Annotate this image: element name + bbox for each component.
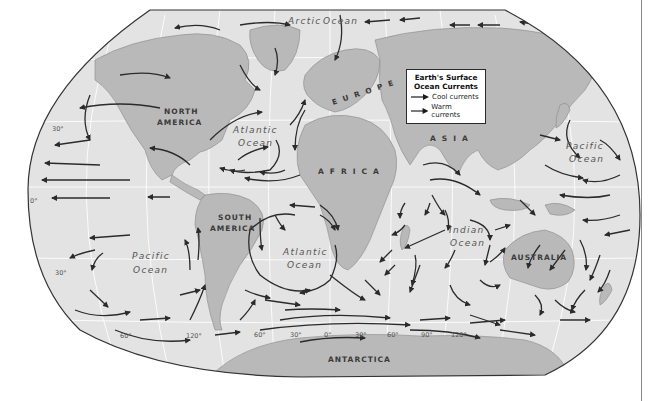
label-south-pacific-1: Pacific — [132, 251, 170, 261]
legend-item-warm: Warm currents — [411, 103, 481, 119]
label-north-america-2: AMERICA — [157, 118, 202, 127]
label-antarctica: ANTARCTICA — [328, 355, 391, 364]
label-south-atlantic-2: Ocean — [287, 260, 322, 270]
label-lon-1: 120° — [186, 332, 202, 340]
legend-item-cool: Cool currents — [411, 93, 481, 101]
label-africa: AFRICA — [318, 167, 385, 176]
label-arctic-ocean-2: Ocean — [323, 16, 358, 26]
label-lat-equator: 0° — [30, 197, 37, 205]
cool-current-arrow-icon — [411, 94, 429, 100]
label-lon-8: 120° — [451, 331, 467, 339]
label-south-pacific-2: Ocean — [133, 265, 168, 275]
label-lon-5: 30° — [355, 331, 367, 339]
label-lon-3: 30° — [290, 331, 302, 339]
ocean-currents-map: NORTH AMERICA SOUTH AMERICA EUROPE AFRIC… — [0, 0, 655, 401]
label-lon-4: 0° — [324, 331, 331, 339]
label-lon-0: 60° — [120, 332, 132, 340]
legend-title-line1: Earth's Surface — [411, 73, 481, 82]
label-indian-ocean-2: Ocean — [450, 238, 485, 248]
label-south-america-1: SOUTH — [218, 213, 252, 222]
label-lon-2: 60° — [254, 331, 266, 339]
legend-title-line2: Ocean Currents — [411, 82, 481, 91]
label-south-atlantic-1: Atlantic — [282, 247, 328, 257]
legend: Earth's Surface Ocean Currents Cool curr… — [406, 69, 486, 124]
label-lon-6: 60° — [387, 331, 399, 339]
legend-cool-label: Cool currents — [432, 93, 479, 101]
label-lat-30s: 30° — [55, 269, 67, 277]
label-lat-30n: 30° — [52, 125, 64, 133]
label-indian-ocean-1: Indian — [449, 225, 485, 235]
label-lon-7: 90° — [421, 331, 433, 339]
label-south-america-2: AMERICA — [210, 224, 255, 233]
map-svg: NORTH AMERICA SOUTH AMERICA EUROPE AFRIC… — [0, 0, 655, 401]
label-australia: AUSTRALIA — [511, 253, 567, 262]
warm-current-arrow-icon — [411, 108, 428, 114]
label-north-america-1: NORTH — [164, 107, 198, 116]
page-edge-rule — [641, 0, 642, 401]
label-asia: ASIA — [430, 134, 474, 143]
label-arctic-ocean-1: Arctic — [287, 16, 322, 26]
label-north-atlantic-1: Atlantic — [232, 125, 278, 135]
legend-warm-label: Warm currents — [431, 103, 481, 119]
label-north-pacific-1: Pacific — [566, 141, 604, 151]
label-north-atlantic-2: Ocean — [238, 138, 273, 148]
label-north-pacific-2: Ocean — [569, 154, 604, 164]
